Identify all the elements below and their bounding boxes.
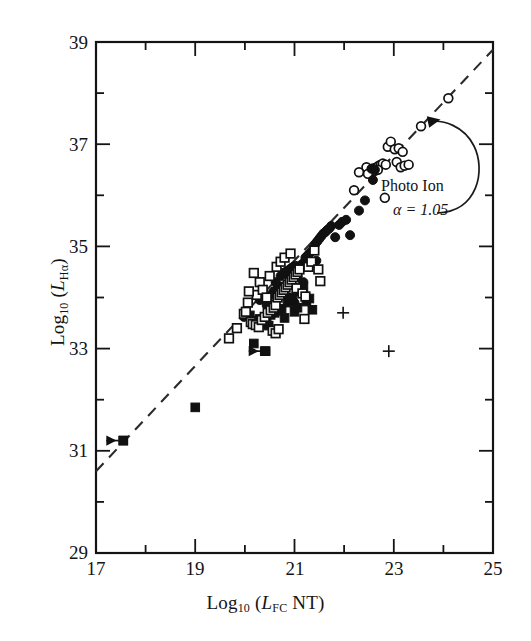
y-axis-title-tail: ) bbox=[47, 258, 68, 265]
marker-open-square bbox=[286, 249, 295, 258]
marker-filled-circle bbox=[360, 196, 369, 205]
marker-filled-square bbox=[191, 403, 200, 412]
xtick-label-19: 19 bbox=[175, 558, 215, 580]
x-axis-title-sub10: 10 bbox=[238, 601, 250, 615]
marker-open-square bbox=[262, 293, 271, 302]
marker-filled-square bbox=[293, 303, 302, 312]
marker-open-circle bbox=[444, 94, 453, 103]
marker-open-square bbox=[314, 265, 323, 274]
marker-open-circle bbox=[355, 168, 364, 177]
marker-open-square bbox=[233, 324, 242, 333]
x-axis-title-tail: NT) bbox=[287, 592, 324, 613]
y-axis-title-open: ( bbox=[47, 291, 68, 302]
marker-open-square bbox=[316, 277, 325, 286]
marker-open-square bbox=[274, 325, 283, 334]
marker-open-circle bbox=[404, 160, 413, 169]
marker-filled-square bbox=[280, 314, 289, 323]
marker-open-square bbox=[310, 246, 319, 255]
marker-upper-limit-square bbox=[119, 436, 128, 445]
marker-open-square bbox=[301, 292, 310, 301]
marker-open-circle bbox=[398, 147, 407, 156]
xtick-label-23: 23 bbox=[374, 558, 414, 580]
y-axis-title-wrapper: Log10 (LHα) bbox=[47, 37, 71, 568]
x-axis-title: Log10 (LFC NT) bbox=[0, 592, 531, 616]
marker-upper-limit-square bbox=[261, 347, 270, 356]
y-axis-title-log: Log bbox=[47, 315, 68, 346]
data-markers bbox=[106, 94, 452, 445]
marker-open-square bbox=[245, 287, 254, 296]
x-axis-title-subfc: FC bbox=[272, 601, 287, 615]
x-axis-title-L: L bbox=[262, 592, 273, 613]
x-axis-title-log: Log bbox=[206, 592, 237, 613]
y-axis-title: Log10 (LHα) bbox=[47, 258, 68, 346]
annotation-alpha-value: α = 1.05 bbox=[393, 201, 448, 219]
marker-open-square bbox=[250, 269, 259, 278]
annotation-arrow bbox=[428, 121, 479, 213]
fit-line-dashed bbox=[96, 50, 493, 472]
marker-filled-circle bbox=[331, 233, 340, 242]
marker-open-circle bbox=[381, 160, 390, 169]
marker-open-square bbox=[265, 272, 274, 281]
marker-open-square bbox=[300, 315, 309, 324]
scatter-plot-figure: 17 19 21 23 25 29 31 33 35 37 39 Log10 (… bbox=[0, 0, 531, 641]
marker-plus bbox=[383, 345, 395, 357]
marker-filled-circle bbox=[370, 165, 379, 174]
xtick-label-25: 25 bbox=[473, 558, 513, 580]
marker-open-circle bbox=[350, 186, 359, 195]
marker-filled-square bbox=[288, 293, 297, 302]
marker-filled-square bbox=[250, 339, 259, 348]
annotation-photo-ion-label: Photo Ion bbox=[381, 177, 444, 195]
marker-open-square bbox=[244, 298, 253, 307]
x-axis-title-open: ( bbox=[250, 592, 261, 613]
marker-open-square bbox=[225, 334, 234, 343]
marker-filled-circle bbox=[342, 215, 351, 224]
y-axis-title-L: L bbox=[47, 280, 68, 291]
marker-filled-circle bbox=[355, 206, 364, 215]
y-axis-title-subha: Hα bbox=[57, 265, 71, 280]
marker-filled-circle bbox=[346, 231, 355, 240]
marker-open-square bbox=[242, 308, 251, 317]
xtick-label-21: 21 bbox=[275, 558, 315, 580]
y-axis-title-sub10: 10 bbox=[57, 302, 71, 314]
marker-open-square bbox=[295, 265, 304, 274]
marker-plus bbox=[337, 307, 349, 319]
marker-filled-circle bbox=[368, 175, 377, 184]
marker-open-circle bbox=[417, 122, 426, 131]
marker-filled-square bbox=[308, 305, 317, 314]
